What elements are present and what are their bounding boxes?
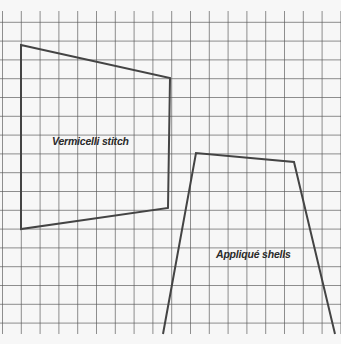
grid-diagram [0,0,341,344]
label-applique-shells: Appliqué shells [216,248,291,260]
grid-lines [0,11,341,334]
shape-applique-shells [163,153,335,334]
shapes [21,45,335,334]
label-vermicelli-stitch: Vermicelli stitch [52,135,129,147]
